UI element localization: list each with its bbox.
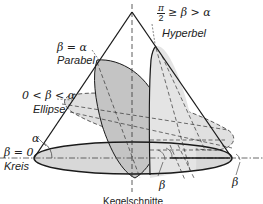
label-ellipse-condition: 0 < β < α — [22, 90, 75, 101]
alpha-symbol: α — [32, 132, 39, 145]
figure-caption: Kegelschnitte — [103, 196, 163, 204]
label-parabel-condition: β = α — [57, 42, 87, 53]
label-beta-1: β — [159, 180, 165, 191]
beta-symbol: β — [232, 176, 238, 189]
circle-condition: β = 0 — [4, 146, 34, 159]
label-ellipse: Ellipse — [33, 104, 65, 115]
label-hyperbel-condition: π 2 ≥ β > α — [157, 4, 211, 23]
frac-denominator: 2 — [157, 14, 165, 23]
conic-sections-figure — [0, 0, 263, 204]
hyperbola-condition: ≥ β > α — [168, 6, 211, 19]
label-parabel: Parabel — [57, 55, 95, 66]
pi-over-two: π 2 — [157, 4, 165, 23]
label-kreis-condition: β = 0 — [4, 147, 34, 158]
label-kreis: Kreis — [4, 161, 29, 172]
parabola-condition: β = α — [57, 41, 87, 54]
label-alpha: α — [32, 133, 39, 144]
beta-symbol: β — [159, 179, 165, 192]
ellipse-condition: 0 < β < α — [22, 89, 75, 102]
label-hyperbel: Hyperbel — [162, 28, 206, 39]
label-beta-2: β — [232, 177, 238, 188]
